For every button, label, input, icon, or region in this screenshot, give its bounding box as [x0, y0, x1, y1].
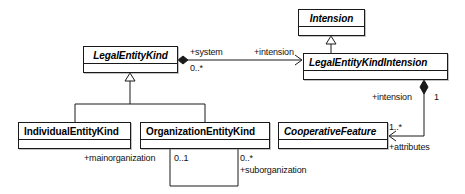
label-mainorganization-multiplicity: 0..1 — [174, 153, 188, 163]
class-name-cooperative-feature: CooperativeFeature — [279, 123, 387, 140]
label-intension-role-right: +intension — [372, 92, 412, 102]
class-attributes-legal-entity-kind — [84, 64, 177, 73]
class-name-legal-entity-kind-intension: LegalEntityKindIntension — [304, 54, 447, 71]
class-box-individual-entity-kind[interactable]: IndividualEntityKind — [18, 122, 131, 149]
generalization-legal-entity-kind — [75, 73, 205, 122]
class-name-intension: Intension — [299, 10, 364, 27]
class-attributes-legal-entity-kind-intension — [304, 71, 447, 80]
label-intension-multiplicity: 1 — [434, 92, 439, 102]
label-system-role: +system — [190, 47, 223, 57]
label-suborganization-multiplicity: 0..* — [240, 153, 253, 163]
label-attributes-role: +attributes — [389, 142, 430, 152]
class-name-individual-entity-kind: IndividualEntityKind — [19, 123, 130, 140]
class-attributes-individual-entity-kind — [19, 140, 130, 149]
class-attributes-intension — [299, 27, 364, 36]
label-intension-role-top: +intension — [254, 47, 294, 57]
class-name-legal-entity-kind: LegalEntityKind — [84, 47, 177, 64]
generalization-intension — [326, 36, 336, 53]
class-box-organization-entity-kind[interactable]: OrganizationEntityKind — [140, 122, 270, 149]
label-mainorganization-role: +mainorganization — [84, 153, 155, 163]
class-box-intension[interactable]: Intension — [298, 9, 365, 36]
class-attributes-cooperative-feature — [279, 140, 387, 149]
label-suborganization-role: +suborganization — [240, 165, 306, 175]
label-attributes-multiplicity: 1..* — [389, 122, 402, 132]
class-box-cooperative-feature[interactable]: CooperativeFeature — [278, 122, 388, 149]
class-attributes-organization-entity-kind — [141, 140, 269, 149]
class-box-legal-entity-kind-intension[interactable]: LegalEntityKindIntension — [303, 53, 448, 80]
label-system-multiplicity: 0..* — [190, 63, 203, 73]
uml-class-diagram: LegalEntityKindIntension (+system / +int… — [0, 0, 465, 194]
class-name-organization-entity-kind: OrganizationEntityKind — [141, 123, 269, 140]
class-box-legal-entity-kind[interactable]: LegalEntityKind — [83, 46, 178, 73]
